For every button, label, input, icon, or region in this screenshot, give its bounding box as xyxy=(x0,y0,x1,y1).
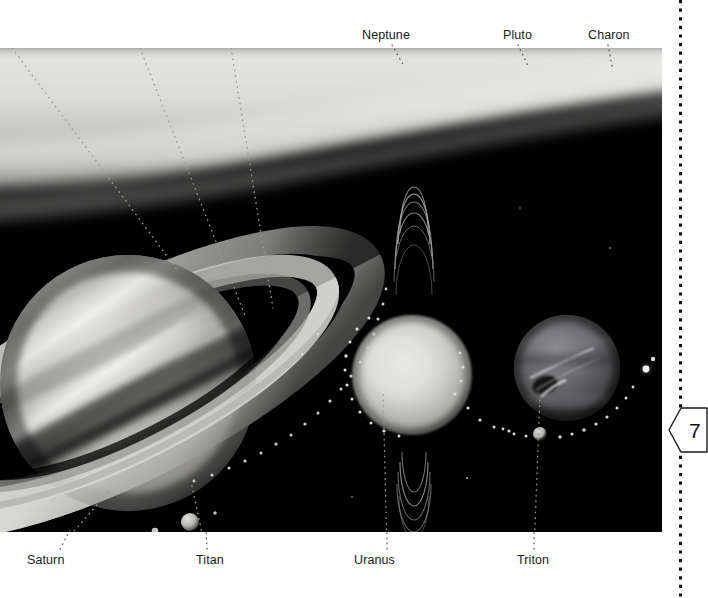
triton-moon xyxy=(533,427,547,441)
page-number: 7 xyxy=(689,419,701,443)
margin-dotted-rule xyxy=(679,0,682,598)
figure-plate xyxy=(0,48,662,532)
label-titan: Titan xyxy=(196,553,224,567)
figure-artwork xyxy=(0,48,662,532)
label-pluto: Pluto xyxy=(503,28,532,42)
titan-moon xyxy=(181,513,199,531)
pluto-dwarf-planet xyxy=(641,364,652,375)
leader-titan xyxy=(206,530,207,549)
charon-moon xyxy=(651,357,655,361)
label-uranus: Uranus xyxy=(354,553,395,567)
leader-saturn xyxy=(60,530,70,549)
page-number-marker xyxy=(668,404,708,456)
label-charon: Charon xyxy=(588,28,630,42)
label-saturn: Saturn xyxy=(27,553,64,567)
uranus-planet xyxy=(352,315,472,435)
label-triton: Triton xyxy=(517,553,549,567)
label-neptune: Neptune xyxy=(362,28,410,42)
